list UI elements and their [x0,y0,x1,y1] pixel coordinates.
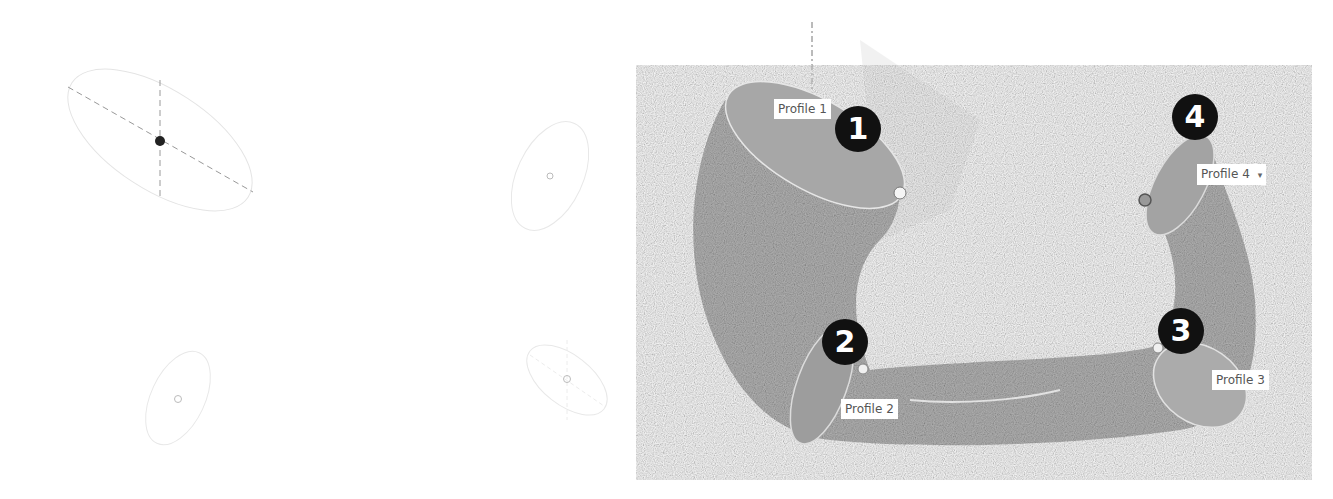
handle-point-1[interactable] [894,187,906,199]
center-point-icon [155,136,165,146]
profile-label-2[interactable]: Profile 2 [841,399,898,419]
dropdown-caret-icon[interactable]: ▾ [1258,170,1263,180]
sketch-profile-1[interactable] [45,41,276,239]
canvas [0,0,1333,499]
profile-label-1[interactable]: Profile 1 [774,99,831,119]
sketch-profile-2[interactable] [496,109,605,242]
step-badge-1: 1 [835,106,881,152]
handle-point-2[interactable] [858,364,868,374]
step-badge-4: 4 [1172,94,1218,140]
step-badge-2: 2 [822,319,868,365]
sketch-profile-3[interactable] [132,341,223,454]
sketch-profile-4[interactable] [515,331,620,428]
step-badge-3: 3 [1158,308,1204,354]
handle-point-4[interactable] [1139,194,1151,206]
loft-body[interactable] [693,22,1300,470]
profile-label-4[interactable]: Profile 4▾ [1197,164,1266,185]
profile-label-3[interactable]: Profile 3 [1212,370,1269,390]
profile-4-text: Profile 4 [1201,167,1250,181]
